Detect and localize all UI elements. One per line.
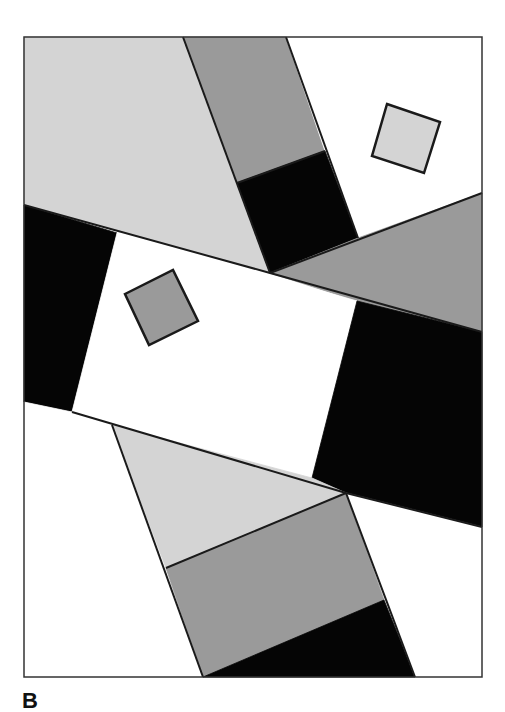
panel-label: B [22, 690, 38, 712]
